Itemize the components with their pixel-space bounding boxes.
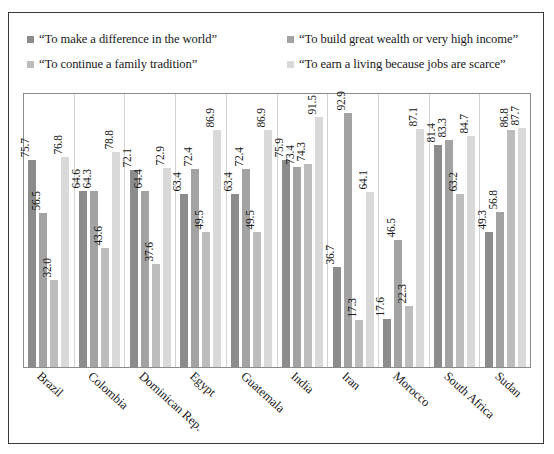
bar[interactable] — [518, 128, 526, 367]
bar-column: 75.9 — [282, 94, 290, 367]
legend-column-right: “To build great wealth or very high inco… — [287, 27, 545, 77]
bar-value-label: 56.8 — [487, 190, 499, 209]
bar-value-label: 64.1 — [357, 170, 369, 189]
bar[interactable] — [394, 240, 402, 367]
bar-value-label: 17.6 — [375, 297, 387, 316]
bar[interactable] — [191, 169, 199, 367]
bar[interactable] — [141, 191, 149, 367]
bar-column: 73.4 — [293, 94, 301, 367]
bar[interactable] — [333, 267, 341, 367]
bar[interactable] — [163, 168, 171, 367]
bar[interactable] — [39, 213, 47, 367]
bar-value-label: 43.6 — [93, 226, 105, 245]
bar-column: 64.1 — [366, 94, 374, 367]
bar-value-label: 91.5 — [306, 95, 318, 114]
bar[interactable] — [61, 157, 69, 367]
category-tick: Sudan — [480, 369, 531, 443]
bar[interactable] — [130, 170, 138, 367]
category-tick: Iran — [328, 369, 379, 443]
bar[interactable] — [366, 192, 374, 367]
legend-item-label: “To earn a living because jobs are scarc… — [299, 52, 505, 77]
bar[interactable] — [467, 136, 475, 367]
bar-column: 91.5 — [315, 94, 323, 367]
bar[interactable] — [79, 191, 87, 367]
bar-value-label: 74.3 — [295, 142, 307, 161]
bar[interactable] — [242, 169, 250, 367]
bar[interactable] — [496, 212, 504, 367]
bar[interactable] — [485, 232, 493, 367]
legend-column-left: “To make a difference in the world” “To … — [27, 27, 287, 77]
legend-swatch-icon — [27, 36, 34, 43]
bar-value-label: 49.5 — [245, 210, 257, 229]
bar-value-label: 36.7 — [324, 245, 336, 264]
bar-group: 75.973.474.391.5 — [278, 94, 329, 367]
bar[interactable] — [383, 319, 391, 367]
legend-item-jobs-scarce: “To earn a living because jobs are scarc… — [287, 52, 545, 77]
bar[interactable] — [101, 248, 109, 367]
bar-column: 49.3 — [485, 94, 493, 367]
category-label: Brazil — [34, 369, 66, 400]
bar[interactable] — [90, 191, 98, 367]
bar[interactable] — [304, 164, 312, 367]
bar-value-label: 32.0 — [42, 258, 54, 277]
legend-item-label: “To build great wealth or very high inco… — [299, 27, 518, 52]
bar-column: 22.3 — [405, 94, 413, 367]
bar-column: 87.1 — [416, 94, 424, 367]
category-label: Morocco — [389, 369, 432, 410]
bar[interactable] — [405, 306, 413, 367]
legend-swatch-icon — [27, 61, 34, 68]
category-tick: Guatemala — [226, 369, 277, 443]
bar[interactable] — [344, 113, 352, 367]
bar-column: 92.9 — [344, 94, 352, 367]
bar[interactable] — [253, 232, 261, 367]
bar[interactable] — [112, 152, 120, 367]
bar[interactable] — [152, 264, 160, 367]
category-axis: BrazilColombiaDominican Rep.EgyptGuatema… — [23, 369, 531, 443]
legend-item-label: “To make a difference in the world” — [39, 27, 217, 52]
bar-column: 86.9 — [264, 94, 272, 367]
bar[interactable] — [180, 194, 188, 367]
bar-groups-container: 75.756.532.076.864.664.343.678.872.164.4… — [24, 94, 530, 367]
bar-column: 56.5 — [39, 94, 47, 367]
legend-item-great-wealth: “To build great wealth or very high inco… — [287, 27, 545, 52]
bar-column: 63.2 — [456, 94, 464, 367]
bar-column: 76.8 — [61, 94, 69, 367]
plot-area: 75.756.532.076.864.664.343.678.872.164.4… — [23, 93, 531, 368]
bar-value-label: 72.4 — [234, 147, 246, 166]
bar-value-label: 49.5 — [194, 210, 206, 229]
bar-value-label: 84.7 — [458, 114, 470, 133]
bar[interactable] — [282, 160, 290, 367]
bar[interactable] — [315, 117, 323, 367]
bar[interactable] — [507, 130, 515, 367]
bar-value-label: 64.3 — [82, 169, 94, 188]
bar[interactable] — [50, 280, 58, 367]
legend-item-family-tradition: “To continue a family tradition” — [27, 52, 287, 77]
bar[interactable] — [202, 232, 210, 367]
bar-column: 75.7 — [28, 94, 36, 367]
chart-figure: “To make a difference in the world” “To … — [8, 12, 544, 444]
category-tick: Colombia — [74, 369, 125, 443]
bar-value-label: 72.4 — [183, 147, 195, 166]
bar-column: 56.8 — [496, 94, 504, 367]
bar[interactable] — [264, 130, 272, 367]
bar[interactable] — [434, 145, 442, 367]
bar-column: 83.3 — [445, 94, 453, 367]
bar[interactable] — [416, 129, 424, 367]
bar-column: 86.9 — [213, 94, 221, 367]
bar-value-label: 75.7 — [20, 138, 32, 157]
bar-column: 46.5 — [394, 94, 402, 367]
bar-value-label: 72.9 — [154, 146, 166, 165]
bar-column: 63.4 — [231, 94, 239, 367]
bar-value-label: 37.6 — [143, 242, 155, 261]
bar[interactable] — [231, 194, 239, 367]
bar-value-label: 87.1 — [408, 107, 420, 126]
bar-column: 86.8 — [507, 94, 515, 367]
category-label: India — [288, 369, 317, 397]
bar-group: 36.792.917.364.1 — [328, 94, 379, 367]
bar[interactable] — [355, 320, 363, 367]
bar[interactable] — [456, 194, 464, 367]
bar-group: 81.483.363.284.7 — [430, 94, 481, 367]
bar[interactable] — [213, 130, 221, 367]
bar-group: 75.756.532.076.8 — [24, 94, 75, 367]
bar[interactable] — [293, 167, 301, 367]
